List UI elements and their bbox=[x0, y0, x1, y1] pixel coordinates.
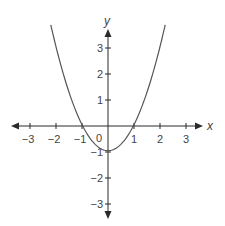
x-tick-label: −2 bbox=[48, 133, 61, 145]
origin-label: 0 bbox=[96, 132, 102, 144]
y-tick-label: −1 bbox=[90, 146, 103, 158]
y-tick-label: 1 bbox=[97, 94, 103, 106]
x-tick-label: 1 bbox=[131, 133, 137, 145]
x-axis-left-arrow-icon bbox=[11, 123, 19, 130]
parabola-graph: −3−2−1123321−1−2−3 x y 0 bbox=[0, 0, 225, 226]
x-tick-label: 2 bbox=[157, 133, 163, 145]
x-tick-label: −1 bbox=[74, 133, 87, 145]
y-tick-label: 2 bbox=[97, 68, 103, 80]
x-axis-label: x bbox=[206, 119, 214, 133]
y-tick-label: −2 bbox=[90, 172, 103, 184]
axes bbox=[11, 29, 203, 219]
x-axis-right-arrow-icon bbox=[195, 123, 203, 130]
y-tick-label: −3 bbox=[90, 198, 103, 210]
y-axis-up-arrow-icon bbox=[105, 29, 112, 37]
x-tick-label: 3 bbox=[183, 133, 189, 145]
y-axis-label: y bbox=[103, 14, 111, 28]
y-tick-label: 3 bbox=[97, 42, 103, 54]
x-tick-label: −3 bbox=[22, 133, 35, 145]
y-axis-down-arrow-icon bbox=[105, 211, 112, 219]
